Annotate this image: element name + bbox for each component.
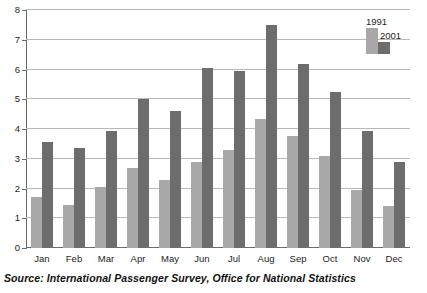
x-tick-label-dec: Dec	[374, 253, 414, 264]
bar-aug-2001	[266, 25, 277, 248]
bar-may-1991	[159, 180, 170, 248]
bar-may-2001	[170, 111, 181, 248]
legend-label-2001: 2001	[380, 31, 401, 41]
bar-group	[319, 10, 341, 248]
bar-oct-2001	[330, 92, 341, 248]
bar-group	[287, 10, 309, 248]
y-tick-label-3: 3	[0, 154, 20, 164]
bar-sep-1991	[287, 136, 298, 248]
source-note: Source: International Passenger Survey, …	[4, 272, 356, 284]
bar-mar-1991	[95, 187, 106, 248]
y-tick-label-1: 1	[0, 213, 20, 223]
legend-label-1991: 1991	[366, 17, 387, 27]
bar-aug-1991	[255, 119, 266, 248]
bar-nov-1991	[351, 190, 362, 248]
legend-swatch-1991	[366, 28, 378, 54]
y-tick-label-4: 4	[0, 124, 20, 134]
y-axis: 012345678	[0, 0, 26, 293]
bar-jan-2001	[42, 142, 53, 248]
bar-group	[159, 10, 181, 248]
bar-dec-2001	[394, 162, 405, 248]
bar-jun-1991	[191, 162, 202, 248]
bar-sep-2001	[298, 64, 309, 248]
bar-jul-2001	[234, 71, 245, 248]
bar-group	[255, 10, 277, 248]
bar-group	[95, 10, 117, 248]
bar-group	[31, 10, 53, 248]
bar-oct-1991	[319, 156, 330, 248]
chart-legend: 1991 2001	[366, 18, 412, 54]
bar-apr-1991	[127, 168, 138, 248]
bar-feb-2001	[74, 148, 85, 248]
bar-feb-1991	[63, 205, 74, 248]
plot-area	[26, 10, 410, 248]
y-tick-label-8: 8	[0, 5, 20, 15]
bar-apr-2001	[138, 99, 149, 248]
y-tick-label-2: 2	[0, 184, 20, 194]
bar-group	[127, 10, 149, 248]
bar-jul-1991	[223, 150, 234, 248]
y-tick-label-0: 0	[0, 243, 20, 253]
bar-jan-1991	[31, 197, 42, 248]
legend-swatch-2001	[378, 42, 390, 54]
y-tick-label-7: 7	[0, 35, 20, 45]
bar-mar-2001	[106, 131, 117, 249]
y-tick-label-6: 6	[0, 65, 20, 75]
bar-dec-1991	[383, 206, 394, 248]
bar-group	[63, 10, 85, 248]
bar-group	[191, 10, 213, 248]
bar-group	[223, 10, 245, 248]
chart-figure: 012345678 JanFebMarAprMayJunJulAugSepOct…	[0, 0, 427, 293]
divider	[0, 266, 427, 267]
bar-nov-2001	[362, 131, 373, 249]
y-tick-label-5: 5	[0, 94, 20, 104]
bar-jun-2001	[202, 68, 213, 248]
